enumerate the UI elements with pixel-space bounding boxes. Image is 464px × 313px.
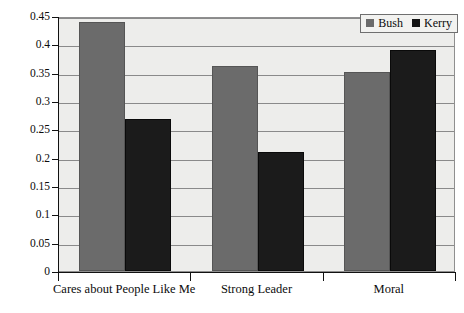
y-axis-tick-label: 0.45 [4,11,50,23]
legend-entry-kerry[interactable]: Kerry [412,17,452,29]
y-axis-tick-label: 0.15 [4,181,50,193]
y-axis-tick-label: 0.05 [4,238,50,250]
y-axis-tick-labels: 00.050.10.150.20.250.30.350.40.45 [0,0,50,313]
x-axis-separator-tick [190,273,191,281]
y-axis-tick-label: 0.1 [4,210,50,222]
x-axis-category-label: Moral [374,283,405,297]
y-axis-tick-mark [52,244,58,245]
bar-bush-1 [79,22,125,271]
bar-bush-3 [344,72,390,271]
x-axis-end-tick [455,273,456,281]
legend-entry-bush[interactable]: Bush [366,17,403,29]
y-axis-tick-mark [52,17,58,18]
bar-bush-2 [212,66,258,271]
y-axis-tick-mark [52,272,58,273]
y-axis-tick-label: 0.4 [4,40,50,52]
legend-swatch-icon [412,19,420,27]
bar-kerry-2 [258,152,304,271]
y-axis-tick-label: 0.3 [4,96,50,108]
y-axis-tick-label: 0.25 [4,125,50,137]
y-axis-tick-label: 0 [4,266,50,278]
x-axis-line [58,272,456,273]
legend-label: Kerry [424,17,452,29]
x-axis-category-label: Cares about People Like Me [53,283,195,297]
legend-swatch-icon [366,19,374,27]
y-axis-tick-mark [52,159,58,160]
y-axis-tick-mark [52,45,58,46]
y-axis-tick-mark [52,215,58,216]
y-axis-tick-mark [52,187,58,188]
y-axis-tick-label: 0.2 [4,153,50,165]
bar-kerry-3 [390,50,436,271]
x-axis-category-label: Strong Leader [221,283,292,297]
x-axis-end-tick [58,273,59,281]
plot-area [58,17,455,272]
y-axis-tick-label: 0.35 [4,68,50,80]
y-axis-tick-mark [52,74,58,75]
legend-label: Bush [378,17,403,29]
y-axis-line [58,17,59,273]
x-axis-separator-tick [323,273,324,281]
y-axis-tick-mark [52,130,58,131]
y-axis-tick-mark [52,102,58,103]
bar-kerry-1 [125,119,171,271]
legend: BushKerry [360,14,458,33]
bar-chart: 00.050.10.150.20.250.30.350.40.45 Cares … [0,0,464,313]
